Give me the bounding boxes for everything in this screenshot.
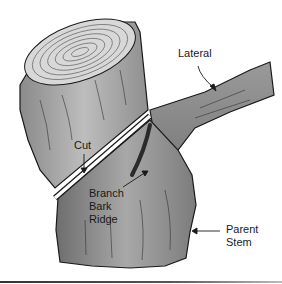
bottom-rule (0, 281, 282, 283)
label-branch: Branch (89, 187, 124, 199)
label-cut: Cut (74, 139, 91, 151)
label-stem: Stem (226, 236, 252, 248)
label-lateral: Lateral (178, 47, 212, 59)
label-bark: Bark (89, 200, 112, 212)
label-ridge: Ridge (89, 213, 118, 225)
label-parent: Parent (226, 223, 258, 235)
